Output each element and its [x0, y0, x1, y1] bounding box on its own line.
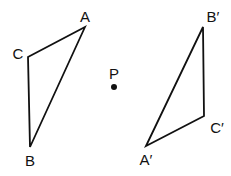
center-point-p	[111, 84, 117, 90]
vertex-label-a: A	[80, 8, 90, 25]
vertex-label-c-prime: C′	[210, 119, 224, 136]
rotation-diagram: A B C A′ B′ C′ P	[0, 0, 231, 176]
triangle-abc	[28, 27, 85, 147]
vertex-label-c: C	[13, 45, 24, 62]
vertex-label-b-prime: B′	[207, 8, 220, 25]
vertex-label-b: B	[25, 152, 35, 169]
center-label-p: P	[109, 65, 119, 82]
triangle-a-prime-b-prime-c-prime	[146, 27, 204, 146]
vertex-label-a-prime: A′	[140, 151, 153, 168]
diagram-canvas: A B C A′ B′ C′ P	[0, 0, 231, 176]
